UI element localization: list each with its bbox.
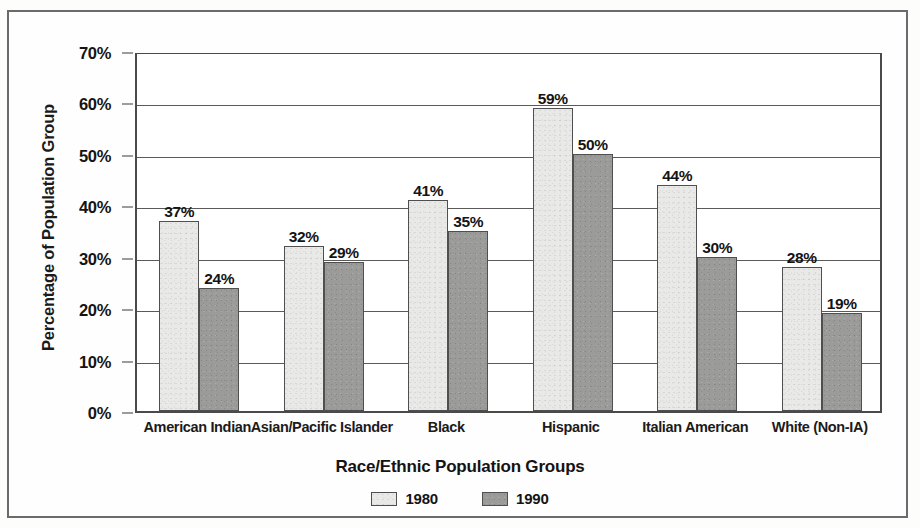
y-tick-label: 10%: [41, 352, 111, 371]
bar-value-label: 41%: [413, 182, 443, 200]
y-tick-label: 40%: [41, 198, 111, 217]
bar-value-label: 32%: [289, 228, 319, 246]
gridline: [137, 157, 880, 158]
y-tick-mark: [122, 413, 133, 414]
bar-1990-0: [199, 288, 239, 411]
y-tick-label: 70%: [41, 44, 111, 63]
x-tick-label: White (Non-IA): [772, 419, 868, 435]
y-tick-mark: [122, 207, 133, 208]
bar-value-label: 59%: [538, 90, 568, 108]
x-tick-label: Asian/Pacific Islander: [251, 419, 393, 435]
bar-1980-3: [533, 108, 573, 411]
chart-legend: 19801990: [0, 490, 920, 507]
gridline: [137, 311, 880, 312]
y-tick-label: 60%: [41, 95, 111, 114]
bar-value-label: 30%: [702, 239, 732, 257]
legend-label: 1980: [405, 490, 438, 507]
gridline: [137, 105, 880, 106]
gridline: [137, 363, 880, 364]
x-tick-label: Hispanic: [542, 419, 600, 435]
bar-value-label: 35%: [453, 213, 483, 231]
plot-area: 37%24%32%29%41%35%59%50%44%30%28%19%: [135, 53, 882, 413]
bar-value-label: 24%: [204, 270, 234, 288]
y-tick-mark: [122, 155, 133, 156]
y-tick-mark: [122, 361, 133, 362]
bar-1990-1: [324, 262, 364, 411]
bar-1990-2: [448, 231, 488, 411]
bar-1990-3: [573, 154, 613, 411]
y-tick-mark: [122, 104, 133, 105]
y-tick-label: 30%: [41, 249, 111, 268]
bar-1990-5: [822, 313, 862, 411]
legend-item-1990: 1990: [482, 490, 549, 507]
y-tick-mark: [122, 258, 133, 259]
bar-value-label: 37%: [164, 203, 194, 221]
bar-value-label: 29%: [329, 244, 359, 262]
bar-1980-0: [159, 221, 199, 411]
bar-value-label: 19%: [827, 295, 857, 313]
chart-figure: Percentage of Population Group 0%10%20%3…: [0, 0, 920, 528]
gridline: [137, 208, 880, 209]
y-tick-mark: [122, 310, 133, 311]
y-tick-label: 50%: [41, 146, 111, 165]
legend-label: 1990: [516, 490, 549, 507]
x-tick-label: American Indian: [143, 419, 251, 435]
legend-item-1980: 1980: [371, 490, 438, 507]
legend-swatch-1990: [482, 492, 508, 506]
gridline: [137, 260, 880, 261]
y-tick-label: 0%: [41, 404, 111, 423]
x-tick-label: Italian American: [642, 419, 748, 435]
bar-1980-1: [284, 246, 324, 411]
bar-value-label: 44%: [662, 167, 692, 185]
bar-1980-5: [782, 267, 822, 411]
bar-value-label: 28%: [787, 249, 817, 267]
x-axis-title: Race/Ethnic Population Groups: [0, 457, 920, 477]
legend-swatch-1980: [371, 492, 397, 506]
y-tick-mark: [122, 53, 133, 54]
bar-value-label: 50%: [578, 136, 608, 154]
x-tick-label: Black: [428, 419, 465, 435]
bar-1980-2: [408, 200, 448, 411]
bar-1990-4: [697, 257, 737, 411]
y-tick-label: 20%: [41, 301, 111, 320]
bar-1980-4: [657, 185, 697, 411]
